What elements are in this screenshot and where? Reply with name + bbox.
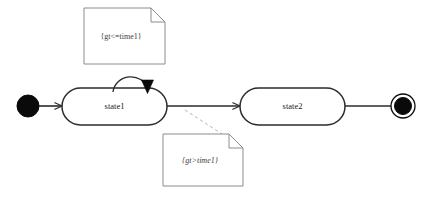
state-node-state2[interactable]: state2 [240, 88, 345, 125]
initial-pseudostate[interactable] [17, 95, 39, 117]
state2-label: state2 [283, 101, 303, 111]
note-connector-line [185, 110, 222, 134]
state1-label: state1 [105, 101, 125, 111]
final-state-inner-disc [395, 98, 412, 115]
note-self-guard-text: {gt<=time1} [100, 32, 141, 41]
note-self-guard[interactable]: {gt<=time1} [84, 8, 165, 64]
uml-state-diagram: state1 state2 {gt<=time1} [0, 0, 430, 197]
note-transition-guard-text: {gt>time1} [182, 156, 219, 165]
diagram-canvas: state1 state2 {gt<=time1} [0, 0, 430, 197]
state-node-state1[interactable]: state1 [62, 88, 167, 125]
note-transition-guard[interactable]: {gt>time1} [163, 134, 243, 186]
final-state[interactable] [391, 94, 415, 118]
